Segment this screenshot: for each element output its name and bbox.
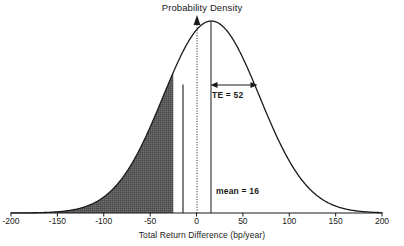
y-axis-line: [194, 15, 201, 213]
x-axis-tick-label: -200: [2, 216, 19, 226]
x-axis-tick-label: -150: [49, 216, 66, 226]
shaded-tail-region: [11, 72, 173, 213]
mean-label: mean = 16: [216, 186, 259, 196]
x-axis-tick-label: 200: [375, 216, 389, 226]
x-axis-title: Total Return Difference (bp/year): [0, 230, 404, 240]
tracking-error-label: TE = 52: [212, 90, 243, 100]
x-axis-tick-label: -100: [95, 216, 112, 226]
x-axis-tick-label: -50: [144, 216, 156, 226]
x-axis-tick-label: 0: [194, 216, 199, 226]
probability-density-plot: [0, 0, 404, 246]
x-axis-tick-label: 100: [282, 216, 296, 226]
x-axis-tick-label: 50: [238, 216, 247, 226]
chart-figure: Probability Density: [0, 0, 404, 246]
x-axis-tick-label: 150: [329, 216, 343, 226]
tracking-error-arrow: [211, 82, 258, 88]
